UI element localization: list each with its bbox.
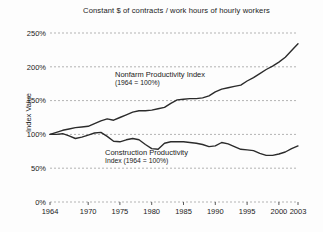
productivity-line-chart: 0%50%100%150%200%250%1964197019751980198… <box>0 0 323 232</box>
x-tick-label: 1995 <box>239 207 256 216</box>
x-tick-label: 1980 <box>143 207 160 216</box>
y-tick-label: 100% <box>27 130 47 139</box>
y-tick-label: 250% <box>27 29 47 38</box>
x-tick-label: 1985 <box>175 207 192 216</box>
x-tick-label: 1990 <box>207 207 224 216</box>
y-tick-label: 0% <box>35 198 46 207</box>
construction-series-label: Construction Productivity Index (1964 = … <box>105 148 188 166</box>
nonfarm-series-label: Nonfarm Productivity Index (1964 = 100%) <box>115 70 205 88</box>
x-tick-label: 2003 <box>290 207 307 216</box>
x-tick-label: 1975 <box>112 207 129 216</box>
nonfarm-series-label-title: Nonfarm Productivity Index <box>115 70 205 79</box>
x-tick-label: 1964 <box>42 207 59 216</box>
y-tick-label: 50% <box>31 164 46 173</box>
x-tick-label: 2000 <box>271 207 288 216</box>
nonfarm-series-label-base: (1964 = 100%) <box>115 79 205 87</box>
x-tick-label: 1970 <box>80 207 97 216</box>
nonfarm-productivity-line <box>50 44 298 135</box>
construction-series-label-base: Index (1964 = 100%) <box>105 157 188 165</box>
construction-series-label-title: Construction Productivity <box>105 148 188 157</box>
y-tick-label: 200% <box>27 63 47 72</box>
y-tick-label: 150% <box>27 96 47 105</box>
productivity-chart-screen: Constant $ of contracts / work hours of … <box>0 0 323 232</box>
